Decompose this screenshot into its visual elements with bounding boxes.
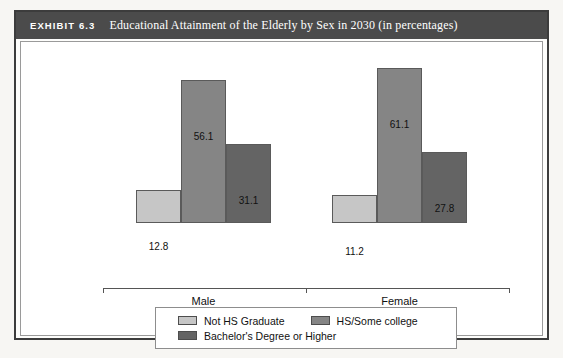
chart-legend: Not HS Graduate HS/Some college Bachelor… [155, 307, 457, 349]
exhibit-number: EXHIBIT 6.3 [30, 20, 95, 31]
axis-group-label-female: Female [332, 295, 467, 307]
bar-value-label: 31.1 [226, 195, 271, 206]
legend-row-bottom: Bachelor's Degree or Higher [156, 328, 456, 343]
legend-swatch-icon [178, 316, 197, 325]
bar-male-series-1 [136, 190, 181, 223]
legend-row-top: Not HS Graduate HS/Some college [156, 313, 456, 328]
axis-tick-left [103, 288, 104, 293]
axis-group-label-male: Male [136, 295, 271, 307]
bar-female-series-2 [377, 68, 422, 223]
legend-item-not-hs-graduate: Not HS Graduate [178, 315, 285, 327]
exhibit-header: EXHIBIT 6.3 Educational Attainment of th… [16, 12, 547, 39]
legend-swatch-icon [178, 331, 197, 340]
axis-tick-right [509, 288, 510, 293]
legend-label: HS/Some college [337, 315, 418, 327]
chart-area: 12.856.131.1Male11.261.127.8Female Not H… [20, 41, 543, 336]
bar-value-label: 11.2 [332, 246, 377, 257]
bar-female-series-1 [332, 195, 377, 223]
legend-item-bachelors-degree-or-higher: Bachelor's Degree or Higher [178, 330, 336, 342]
bar-male-series-2 [181, 80, 226, 223]
legend-label: Bachelor's Degree or Higher [204, 330, 336, 342]
bar-male-series-3 [226, 144, 271, 223]
bar-value-label: 56.1 [181, 131, 226, 142]
legend-label: Not HS Graduate [204, 315, 285, 327]
bar-value-label: 61.1 [377, 119, 422, 130]
exhibit-container: EXHIBIT 6.3 Educational Attainment of th… [14, 10, 549, 340]
legend-swatch-icon [311, 316, 330, 325]
bar-chart-plot: 12.856.131.1Male11.261.127.8Female [21, 42, 542, 335]
exhibit-title: Educational Attainment of the Elderly by… [109, 18, 457, 33]
bar-value-label: 12.8 [136, 241, 181, 252]
bar-value-label: 27.8 [422, 203, 467, 214]
axis-tick-center [306, 288, 307, 293]
legend-item-hs-some-college: HS/Some college [311, 315, 418, 327]
